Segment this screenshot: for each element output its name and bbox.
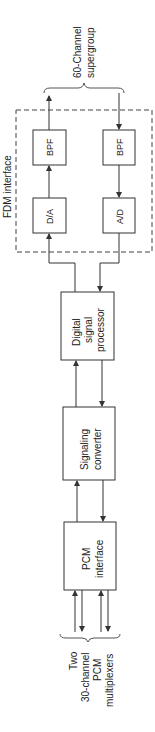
mux-label-1: Two (68, 651, 79, 670)
mux-label-2: 30-channel (80, 653, 91, 702)
dsp-label-2: signal (83, 317, 94, 343)
mux-label-3: PCM (92, 659, 103, 681)
ad-label: A/D (115, 208, 125, 224)
sig-label-2: converter (92, 428, 103, 470)
pcm-label-2: interface (94, 539, 105, 578)
sig-label-1: Signaling (79, 429, 90, 470)
pcm-label-1: PCM (81, 548, 92, 570)
supergroup-label-1: 60-Channel (72, 26, 83, 78)
fdm-interface-label: FDM interface (2, 155, 13, 218)
supergroup-label-2: supergroup (85, 27, 96, 78)
top-brace (44, 83, 124, 93)
bpf-receive-label: BPF (115, 138, 125, 156)
bottom-brace (60, 634, 120, 642)
da-label: D/A (45, 209, 55, 224)
bpf-transmit-label: BPF (45, 138, 55, 156)
dsp-label-3: processor (95, 307, 106, 352)
fdm-pcm-block-diagram: FDM interface 60-Channel supergroup BPF … (0, 0, 155, 732)
mux-label-4: multiplexers (104, 654, 115, 707)
dsp-label-1: Digital (71, 318, 82, 346)
